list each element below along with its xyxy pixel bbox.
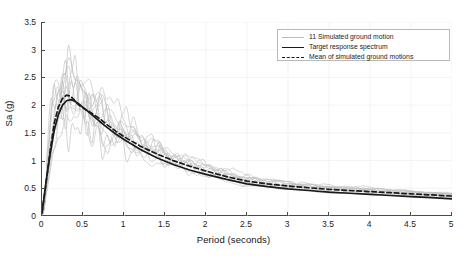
y-axis-label: Sa (g) [3, 84, 14, 144]
x-axis-label: Period (seconds) [0, 234, 467, 245]
legend-label-mean: Mean of simulated ground motions [309, 52, 413, 61]
y-tick-mark [41, 161, 45, 162]
y-tick-label: 3.5 [24, 17, 36, 27]
x-tick-label: 3 [285, 219, 290, 229]
x-tick-mark [328, 212, 329, 216]
x-tick-label: 2.5 [240, 219, 252, 229]
x-axis-tick-labels: 00.511.522.533.544.55 [0, 216, 467, 232]
x-tick-label: 0 [39, 219, 44, 229]
legend-line-solid-icon [281, 42, 305, 51]
y-tick-label: 2 [31, 100, 36, 110]
y-tick-label: 1.5 [24, 128, 36, 138]
x-tick-mark [410, 212, 411, 216]
y-tick-mark [41, 188, 45, 189]
y-tick-mark [41, 50, 45, 51]
x-tick-label: 4 [367, 219, 372, 229]
y-tick-mark [41, 105, 45, 106]
legend-line-dashed-icon [281, 52, 305, 61]
y-tick-mark [41, 22, 45, 23]
legend-item-target: Target response spectrum [281, 42, 446, 52]
x-tick-mark [369, 212, 370, 216]
x-tick-mark [164, 212, 165, 216]
x-tick-mark [82, 212, 83, 216]
legend-item-mean: Mean of simulated ground motions [281, 52, 446, 62]
y-tick-label: 2.5 [24, 72, 36, 82]
x-tick-mark [246, 212, 247, 216]
x-tick-label: 0.5 [76, 219, 88, 229]
x-tick-mark [123, 212, 124, 216]
y-tick-label: 1 [31, 156, 36, 166]
x-tick-label: 2 [203, 219, 208, 229]
spectra-chart-figure: 00.511.522.533.5 00.511.522.533.544.55 P… [0, 0, 467, 272]
x-tick-label: 4.5 [404, 219, 416, 229]
x-tick-mark [205, 212, 206, 216]
chart-legend: 11 Simulated ground motion Target respon… [277, 29, 450, 61]
x-tick-label: 1 [121, 219, 126, 229]
x-tick-mark [287, 212, 288, 216]
legend-item-simulated: 11 Simulated ground motion [281, 32, 446, 42]
x-tick-label: 3.5 [322, 219, 334, 229]
x-tick-mark [451, 212, 452, 216]
x-tick-label: 1.5 [158, 219, 170, 229]
legend-label-simulated: 11 Simulated ground motion [309, 32, 394, 41]
legend-line-thin-icon [281, 32, 305, 41]
x-tick-label: 5 [449, 219, 454, 229]
y-tick-label: 3 [31, 45, 36, 55]
y-tick-label: 0.5 [24, 183, 36, 193]
y-tick-mark [41, 77, 45, 78]
y-tick-mark [41, 133, 45, 134]
legend-label-target: Target response spectrum [309, 42, 388, 51]
